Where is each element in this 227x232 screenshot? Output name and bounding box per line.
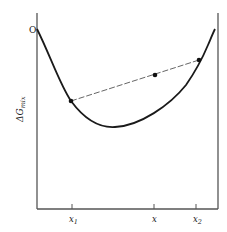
mixture-point: [153, 73, 158, 78]
left-tangent-point: [69, 99, 74, 104]
origin-label: O: [29, 25, 36, 35]
right-tangent-point: [197, 58, 202, 63]
svg-text:ΔGmix: ΔGmix: [15, 96, 27, 123]
common-tangent-line: [71, 60, 199, 101]
gibbs-curve: [37, 29, 215, 127]
diagram-canvas: O ΔGmix x1 x x2: [0, 0, 227, 232]
tick-label-x: x: [152, 214, 157, 224]
tick-label-x2: x2: [193, 214, 202, 226]
y-axis-label-sub: mix: [19, 96, 27, 108]
tick-label-x1: x1: [69, 214, 78, 226]
y-axis-label: ΔGmix: [15, 96, 27, 123]
y-axis-label-main: ΔG: [15, 108, 25, 123]
